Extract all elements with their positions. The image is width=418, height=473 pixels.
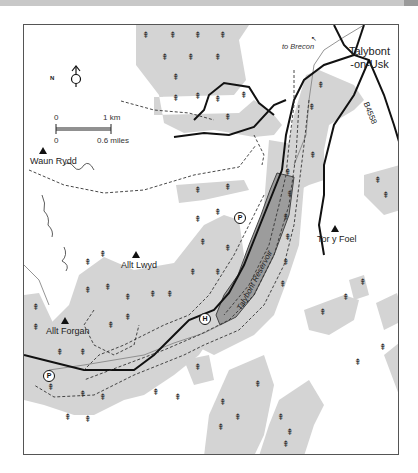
town-label: Talybont -on-Usk (349, 45, 390, 71)
svg-text:⇞: ⇞ (79, 347, 87, 357)
svg-text:⇞: ⇞ (219, 30, 227, 40)
svg-text:⇞: ⇞ (187, 52, 195, 62)
svg-text:⇞: ⇞ (79, 389, 87, 399)
svg-text:⇞: ⇞ (84, 414, 92, 424)
scale-mi-start: 0 (54, 137, 58, 145)
svg-text:⇞: ⇞ (379, 342, 387, 352)
scale-mi-end: 0.6 miles (97, 137, 129, 145)
svg-text:⇞: ⇞ (172, 93, 180, 103)
scale-km-end: 1 km (103, 114, 120, 122)
svg-text:⇞: ⇞ (284, 232, 292, 242)
svg-text:⇞: ⇞ (277, 412, 285, 422)
svg-text:⇞: ⇞ (282, 257, 290, 267)
svg-text:⇞: ⇞ (99, 249, 107, 259)
svg-text:⇞: ⇞ (342, 292, 350, 302)
svg-text:⇞: ⇞ (317, 80, 325, 90)
svg-text:⇞: ⇞ (284, 167, 292, 177)
svg-text:⇞: ⇞ (84, 285, 92, 295)
svg-text:⇞: ⇞ (382, 190, 390, 200)
svg-text:⇞: ⇞ (286, 189, 294, 199)
svg-text:⇞: ⇞ (32, 302, 40, 312)
svg-text:⇞: ⇞ (152, 387, 160, 397)
svg-text:⇞: ⇞ (224, 112, 232, 122)
svg-text:⇞: ⇞ (240, 90, 248, 100)
direction-label: to Brecon (282, 43, 314, 51)
woodland-central-strip (176, 180, 249, 203)
north-arrow-icon (72, 66, 81, 87)
svg-text:⇞: ⇞ (224, 182, 232, 192)
hostel-marker-icon: H (199, 313, 211, 325)
svg-text:⇞: ⇞ (166, 289, 174, 299)
svg-text:⇞: ⇞ (224, 243, 232, 253)
svg-text:⇞: ⇞ (214, 207, 222, 217)
hill-label-allt-forgan: Allt Forgan (46, 327, 90, 336)
svg-text:⇞: ⇞ (124, 292, 132, 302)
svg-text:⇞: ⇞ (161, 52, 169, 62)
svg-text:⇞: ⇞ (47, 382, 55, 392)
svg-text:⇞: ⇞ (107, 320, 115, 330)
svg-text:⇞: ⇞ (194, 91, 202, 101)
svg-text:⇞: ⇞ (254, 379, 262, 389)
svg-text:⇞: ⇞ (104, 282, 112, 292)
woodland-southwest (24, 215, 244, 415)
svg-text:⇞: ⇞ (199, 237, 207, 247)
parking-marker-icon: P (43, 370, 55, 382)
top-strip (0, 0, 418, 6)
svg-text:⇞: ⇞ (219, 397, 227, 407)
svg-text:⇞: ⇞ (32, 322, 40, 332)
town-label-line1: Talybont (349, 45, 390, 58)
svg-text:⇞: ⇞ (194, 185, 202, 195)
svg-text:⇞: ⇞ (214, 94, 222, 104)
north-arrow-letter: N (50, 75, 54, 81)
svg-text:⇞: ⇞ (234, 412, 242, 422)
hill-label-allt-lwyd: Allt Lwyd (121, 261, 157, 270)
direction-arrow-icon: ↖ (311, 35, 317, 42)
svg-text:⇞: ⇞ (149, 289, 157, 299)
svg-text:⇞: ⇞ (124, 312, 132, 322)
hill-label-waun-rydd: Waun Rydd (30, 157, 77, 166)
svg-text:⇞: ⇞ (214, 267, 222, 277)
hill-label-tor-y-foel: Tor y Foel (317, 235, 357, 244)
svg-text:⇞: ⇞ (309, 150, 317, 160)
woodland-se-1 (304, 295, 359, 335)
peak-icon (39, 147, 47, 154)
svg-text:⇞: ⇞ (286, 427, 294, 437)
svg-text:⇞: ⇞ (174, 392, 182, 402)
svg-text:⇞: ⇞ (169, 30, 177, 40)
peak-icon (61, 317, 69, 324)
svg-text:⇞: ⇞ (99, 392, 107, 402)
svg-text:⇞: ⇞ (142, 30, 150, 40)
peak-icon (132, 251, 140, 258)
svg-text:⇞: ⇞ (84, 257, 92, 267)
svg-text:⇞: ⇞ (56, 347, 64, 357)
svg-text:⇞: ⇞ (308, 102, 316, 112)
svg-text:⇞: ⇞ (189, 267, 197, 277)
top-strip-corner (404, 0, 418, 6)
svg-text:⇞: ⇞ (359, 277, 367, 287)
svg-text:⇞: ⇞ (279, 279, 287, 289)
svg-text:⇞: ⇞ (374, 175, 382, 185)
scale-km-start: 0 (54, 114, 58, 122)
woodland-south-1 (204, 355, 274, 455)
svg-text:⇞: ⇞ (319, 307, 327, 317)
svg-text:⇞: ⇞ (194, 214, 202, 224)
svg-text:⇞: ⇞ (214, 52, 222, 62)
svg-text:⇞: ⇞ (194, 362, 202, 372)
svg-text:⇞: ⇞ (282, 212, 290, 222)
svg-text:⇞: ⇞ (354, 357, 362, 367)
map-frame: ⇞⇞⇞⇞ ⇞⇞⇞ ⇞ ⇞⇞⇞⇞ ⇞ ⇞⇞⇞ ⇞⇞ ⇞⇞ ⇞⇞ ⇞⇞ ⇞⇞⇞⇞ ⇞… (23, 24, 399, 455)
svg-text:⇞: ⇞ (172, 72, 180, 82)
town-label-line2: -on-Usk (349, 58, 390, 71)
svg-text:⇞: ⇞ (282, 439, 290, 449)
parking-marker-icon: P (234, 212, 246, 224)
woodland-se-3 (376, 293, 399, 330)
scale-bar (56, 124, 111, 134)
svg-text:⇞: ⇞ (64, 412, 72, 422)
svg-text:⇞: ⇞ (194, 30, 202, 40)
peak-icon (331, 225, 339, 232)
svg-text:⇞: ⇞ (217, 422, 225, 432)
